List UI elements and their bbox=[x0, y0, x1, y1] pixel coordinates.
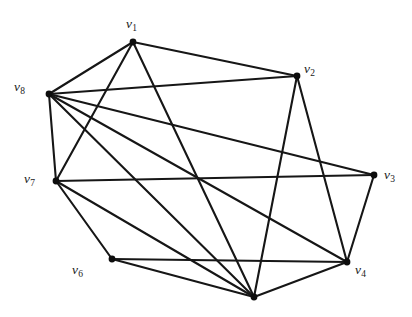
vertex-label-v3: v3 bbox=[384, 168, 395, 182]
graph-edge-v3-v8 bbox=[49, 94, 374, 175]
graph-vertex-v3 bbox=[371, 172, 378, 179]
graph-edge-v3-v7 bbox=[56, 175, 374, 181]
graph-edge-v2-v4 bbox=[297, 76, 347, 262]
graph-vertex-v4 bbox=[344, 259, 351, 266]
graph-vertex-v6 bbox=[109, 256, 116, 263]
vertex-label-v2: v2 bbox=[304, 62, 315, 76]
edges-layer bbox=[49, 42, 374, 297]
graph-diagram: v1v2v3v4v6v7v8 bbox=[0, 0, 412, 317]
vertex-label-v7: v7 bbox=[24, 172, 35, 186]
graph-vertex-v8 bbox=[46, 91, 53, 98]
graph-edge-v1-v2 bbox=[133, 42, 297, 76]
graph-edge-v6-v7 bbox=[56, 181, 112, 259]
graph-canvas bbox=[0, 0, 412, 317]
graph-edge-v4-v6 bbox=[112, 259, 347, 262]
graph-edge-v4-v5 bbox=[254, 262, 347, 297]
graph-vertex-v2 bbox=[294, 73, 301, 80]
vertex-label-v4: v4 bbox=[355, 263, 366, 277]
graph-edge-v7-v8 bbox=[49, 94, 56, 181]
graph-vertex-v7 bbox=[53, 178, 60, 185]
graph-edge-v3-v4 bbox=[347, 175, 374, 262]
graph-edge-v2-v5 bbox=[254, 76, 297, 297]
vertex-label-v6: v6 bbox=[72, 263, 83, 277]
graph-edge-v5-v6 bbox=[112, 259, 254, 297]
vertex-label-v8: v8 bbox=[14, 80, 25, 94]
graph-vertex-v1 bbox=[130, 39, 137, 46]
graph-edge-v4-v8 bbox=[49, 94, 347, 262]
graph-edge-v2-v8 bbox=[49, 76, 297, 94]
graph-vertex-v5 bbox=[251, 294, 258, 301]
graph-edge-v1-v8 bbox=[49, 42, 133, 94]
vertex-label-v1: v1 bbox=[126, 17, 137, 31]
